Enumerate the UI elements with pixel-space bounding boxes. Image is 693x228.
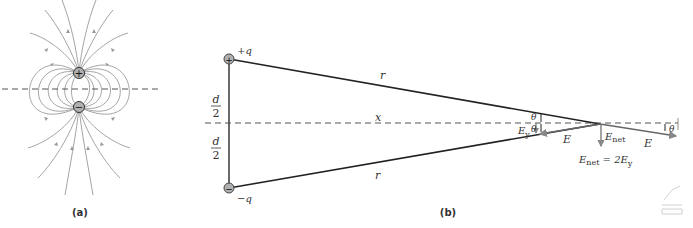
enet-label: Enet — [604, 131, 626, 144]
panel-a-field-lines — [28, 0, 130, 195]
plus-sign-icon: + — [75, 68, 83, 79]
distance-label-bottom: r — [375, 169, 381, 182]
half-separation-top: d 2 — [211, 93, 221, 120]
panel-a-caption: (a) — [72, 207, 88, 218]
plus-sign-icon: + — [225, 55, 233, 65]
fraction-denominator: 2 — [213, 107, 220, 120]
fraction-denominator: 2 — [213, 149, 220, 162]
positive-charge-label: +q — [237, 45, 252, 56]
equation-label: Enet = 2Ey — [578, 154, 633, 168]
axis-distance-label: x — [375, 111, 382, 124]
fraction-numerator: d — [212, 93, 219, 106]
negative-charge-label: −q — [237, 193, 252, 204]
distance-line-top — [229, 59, 600, 124]
positive-charge: + — [224, 54, 234, 65]
panel-a-positive-charge: + — [74, 68, 85, 79]
distance-label-top: r — [380, 69, 386, 82]
panel-a-negative-charge: − — [74, 102, 85, 113]
e-right-label: E — [643, 137, 652, 150]
theta-lower-label: θ — [531, 124, 537, 134]
theta-right-label: θ — [669, 124, 675, 134]
theta-upper-label: θ — [531, 112, 537, 122]
half-separation-bottom: d 2 — [211, 135, 221, 162]
watermark-icon — [662, 186, 682, 214]
dipole-figure: + − (a) + − +q −q d 2 d 2 r r — [0, 0, 693, 228]
panel-b-caption: (b) — [440, 207, 456, 218]
fraction-numerator: d — [212, 135, 219, 148]
minus-sign-icon: − — [225, 184, 233, 194]
minus-sign-icon: − — [75, 102, 83, 113]
negative-charge: − — [224, 183, 234, 194]
e-left-label: E — [562, 133, 571, 146]
